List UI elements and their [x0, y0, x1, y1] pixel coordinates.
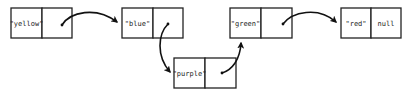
node-value: "yellow"	[10, 20, 44, 28]
list-node-purple: "purple"	[173, 58, 236, 88]
node-value: "blue"	[125, 20, 150, 28]
list-node-blue: "blue"	[122, 8, 183, 38]
node-value: "red"	[345, 20, 366, 28]
pointer-cell	[261, 8, 292, 38]
list-node-red: "red" null	[341, 8, 401, 38]
node-value: "green"	[231, 20, 261, 28]
node-value: "purple"	[173, 70, 207, 78]
pointer-cell	[205, 58, 236, 88]
linked-list-diagram: "yellow" "blue" "purple" "green" "red" n…	[0, 0, 413, 93]
pointer-cell	[42, 8, 72, 38]
null-pointer-label: null	[378, 20, 395, 28]
list-node-green: "green"	[230, 8, 292, 38]
